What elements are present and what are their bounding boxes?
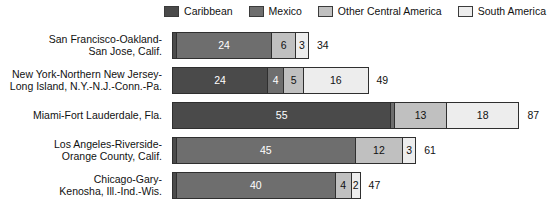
segment-value-label: 3 <box>406 145 412 156</box>
legend-item-mexico[interactable]: Mexico <box>249 6 302 17</box>
row-total-label: 34 <box>317 28 329 61</box>
bar-segment-mexico[interactable]: 45 <box>177 138 356 163</box>
row-label-line1: San Francisco-Oakland- <box>49 33 162 45</box>
row-label: San Francisco-Oakland-San Jose, Calif. <box>0 28 166 61</box>
segment-value-label: 13 <box>415 110 427 121</box>
segment-value-label: 6 <box>281 40 287 51</box>
bar-segment-south-america[interactable]: 3 <box>296 33 308 58</box>
legend-item-label: Mexico <box>269 6 302 17</box>
bar-segment-south-america[interactable]: 18 <box>447 103 518 128</box>
segment-value-label: 3 <box>299 40 305 51</box>
bar-segment-south-america[interactable]: 2 <box>352 173 360 198</box>
chart-rows: San Francisco-Oakland-San Jose, Calif.24… <box>0 28 558 203</box>
legend-item-label: South America <box>478 6 546 17</box>
legend-item-other-central-america[interactable]: Other Central America <box>318 6 442 17</box>
chart-row: Chicago-Gary-Kenosha, Ill.-Ind.-Wis.4042… <box>0 168 558 201</box>
stacked-bar-chart: CaribbeanMexicoOther Central AmericaSout… <box>0 0 558 207</box>
segment-value-label: 40 <box>250 180 262 191</box>
segment-value-label: 16 <box>330 75 342 86</box>
legend-swatch-icon <box>458 6 473 17</box>
bar-segment-mexico[interactable]: 4 <box>268 68 284 93</box>
stacked-bar[interactable]: 2463 <box>172 32 309 59</box>
row-label: Los Angeles-Riverside-Orange County, Cal… <box>0 133 166 166</box>
bar-segment-other-central-america[interactable]: 6 <box>272 33 296 58</box>
legend-swatch-icon <box>249 6 264 17</box>
row-label-line1: Miami-Fort Lauderdale, Fla. <box>33 109 162 121</box>
segment-value-label: 12 <box>373 145 385 156</box>
row-label-line1: New York-Northern New Jersey- <box>12 68 162 80</box>
bar-segment-other-central-america[interactable]: 5 <box>284 68 304 93</box>
legend-item-label: Caribbean <box>184 6 232 17</box>
bar-segment-other-central-america[interactable]: 13 <box>395 103 447 128</box>
bar-segment-south-america[interactable]: 16 <box>304 68 368 93</box>
row-total-label: 49 <box>377 63 389 96</box>
legend-swatch-icon <box>164 6 179 17</box>
bar-segment-other-central-america[interactable]: 4 <box>336 173 352 198</box>
legend-item-label: Other Central America <box>338 6 442 17</box>
bar-segment-caribbean[interactable]: 24 <box>173 68 268 93</box>
bar-segment-other-central-america[interactable]: 12 <box>356 138 404 163</box>
segment-value-label: 55 <box>276 110 288 121</box>
row-label-line2: Kenosha, Ill.-Ind.-Wis. <box>59 185 162 197</box>
stacked-bar[interactable]: 4042 <box>172 172 361 199</box>
row-label-line2: Long Island, N.Y.-N.J.-Conn.-Pa. <box>10 80 162 92</box>
chart-row: Los Angeles-Riverside-Orange County, Cal… <box>0 133 558 166</box>
row-label: Chicago-Gary-Kenosha, Ill.-Ind.-Wis. <box>0 168 166 201</box>
segment-value-label: 2 <box>353 180 359 191</box>
legend-swatch-icon <box>318 6 333 17</box>
legend-item-south-america[interactable]: South America <box>458 6 546 17</box>
row-total-label: 87 <box>527 98 539 131</box>
row-label: Miami-Fort Lauderdale, Fla. <box>0 98 166 131</box>
row-label: New York-Northern New Jersey-Long Island… <box>0 63 166 96</box>
segment-value-label: 45 <box>260 145 272 156</box>
row-label-line1: Chicago-Gary- <box>94 173 162 185</box>
segment-value-label: 24 <box>218 40 230 51</box>
bar-segment-south-america[interactable]: 3 <box>403 138 415 163</box>
chart-row: San Francisco-Oakland-San Jose, Calif.24… <box>0 28 558 61</box>
segment-value-label: 18 <box>477 110 489 121</box>
stacked-bar[interactable]: 244516 <box>172 67 369 94</box>
row-total-label: 61 <box>424 133 436 166</box>
segment-value-label: 24 <box>214 75 226 86</box>
row-label-line2: Orange County, Calif. <box>62 150 162 162</box>
legend-item-caribbean[interactable]: Caribbean <box>164 6 232 17</box>
row-label-line1: Los Angeles-Riverside- <box>54 138 162 150</box>
segment-value-label: 4 <box>340 180 346 191</box>
stacked-bar[interactable]: 45123 <box>172 137 416 164</box>
row-total-label: 47 <box>369 168 381 201</box>
chart-row: New York-Northern New Jersey-Long Island… <box>0 63 558 96</box>
chart-legend: CaribbeanMexicoOther Central AmericaSout… <box>0 6 558 17</box>
bar-segment-caribbean[interactable]: 55 <box>173 103 391 128</box>
row-label-line2: San Jose, Calif. <box>88 45 162 57</box>
bar-segment-mexico[interactable]: 40 <box>177 173 336 198</box>
chart-row: Miami-Fort Lauderdale, Fla.55131887 <box>0 98 558 131</box>
bar-segment-mexico[interactable]: 24 <box>177 33 272 58</box>
segment-value-label: 4 <box>273 75 279 86</box>
segment-value-label: 5 <box>291 75 297 86</box>
stacked-bar[interactable]: 551318 <box>172 102 519 129</box>
